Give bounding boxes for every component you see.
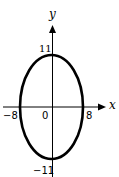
y-axis-arrow-icon xyxy=(49,25,56,33)
x-tick-label-8: 8 xyxy=(86,111,92,121)
x-tick-label-origin: 0 xyxy=(42,111,48,121)
y-axis-label: y xyxy=(49,8,56,20)
x-axis-label: x xyxy=(109,99,116,111)
x-axis-arrow-icon xyxy=(98,104,106,111)
x-tick-label-neg-8: −8 xyxy=(3,111,18,121)
ellipse-plot xyxy=(0,0,119,177)
y-tick-label-11: 11 xyxy=(39,44,52,54)
y-tick-label-neg-11: −11 xyxy=(33,166,54,176)
